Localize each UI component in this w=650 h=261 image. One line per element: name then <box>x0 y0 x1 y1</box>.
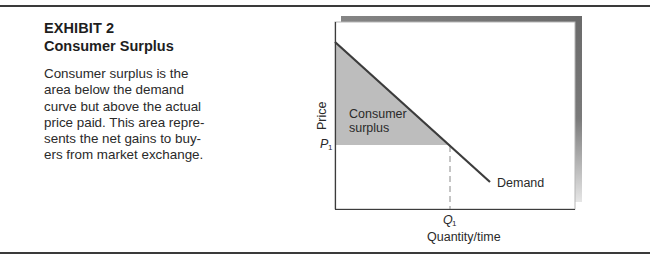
p1-subscript: 1 <box>328 143 333 152</box>
q1-tick-label: Q 1 <box>443 213 457 228</box>
q1-subscript: 1 <box>452 219 457 228</box>
bottom-rule <box>0 252 650 254</box>
x-axis-label: Quantity/time <box>427 230 501 244</box>
p1-tick-label: P 1 <box>320 137 333 152</box>
y-axis-label: Price <box>315 101 329 130</box>
chart-shadow-right <box>575 16 582 202</box>
consumer-surplus-label-2: surplus <box>349 121 389 135</box>
consumer-surplus-label: Consumer <box>349 107 407 121</box>
demand-label: Demand <box>497 176 544 190</box>
consumer-surplus-chart: Consumer surplus Demand P 1 Q 1 Quantity… <box>0 0 650 261</box>
